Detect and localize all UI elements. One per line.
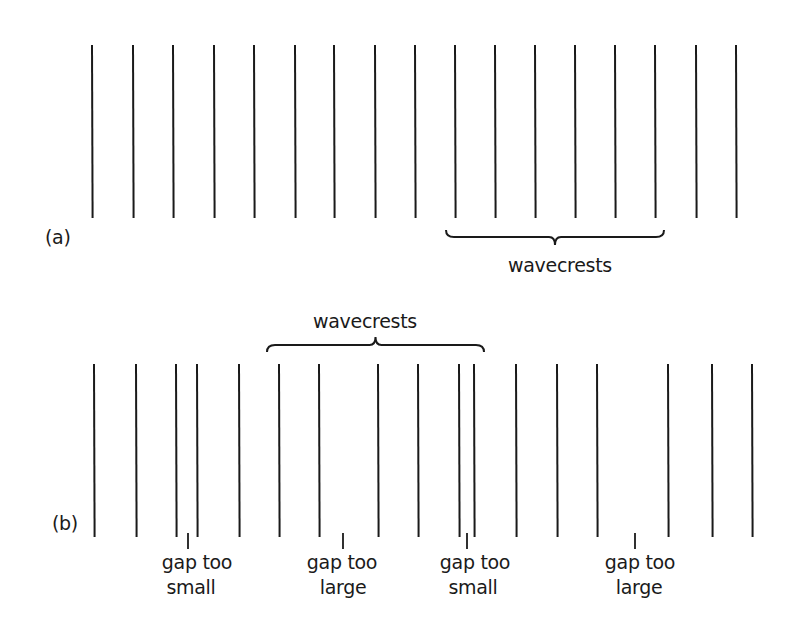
wavecrest-line xyxy=(239,364,240,537)
wavecrest-line xyxy=(655,45,656,218)
wavecrest-line xyxy=(415,45,416,218)
wavecrest-line xyxy=(712,364,713,537)
wavecrest-line xyxy=(455,45,456,218)
wavecrest-line xyxy=(214,45,215,218)
wavecrest-line xyxy=(557,364,558,537)
wavecrest-line xyxy=(535,45,536,218)
gap-annotation-2-line2: large xyxy=(293,576,393,598)
gap-annotation-1-line2: small xyxy=(141,576,241,598)
wavecrest-line xyxy=(615,45,616,218)
wavecrest-line xyxy=(516,364,517,537)
wavecrest-line xyxy=(474,364,475,537)
panel-a-brace-label: wavecrests xyxy=(508,254,612,276)
wavecrest-line xyxy=(418,364,419,537)
wavecrest-line xyxy=(176,364,177,537)
wavecrest-line xyxy=(495,45,496,218)
gap-annotation-4-line1: gap too xyxy=(590,551,690,573)
wavecrest-line xyxy=(173,45,174,218)
wavecrest-line xyxy=(254,45,255,218)
gap-annotation-3-line1: gap too xyxy=(425,551,525,573)
wavecrest-line xyxy=(575,45,576,218)
gap-annotation-4-line2: large xyxy=(589,576,689,598)
wavecrest-line xyxy=(334,45,335,218)
panel-a-wavecrest-lines xyxy=(92,45,737,218)
wavecrest-line xyxy=(92,45,93,218)
panel-b-wavecrest-lines xyxy=(94,364,753,537)
gap-annotation-1-line1: gap too xyxy=(147,551,247,573)
panel-b-brace xyxy=(267,337,484,352)
wavecrest-line xyxy=(279,364,280,537)
wavecrest-line xyxy=(295,45,296,218)
wavecrest-line xyxy=(378,364,379,537)
panel-a-label: (a) xyxy=(45,226,71,248)
wavecrest-line xyxy=(375,45,376,218)
wavecrest-line xyxy=(94,364,95,537)
wavecrest-line xyxy=(736,45,737,218)
wavecrest-line xyxy=(752,364,753,537)
panel-a-brace xyxy=(446,230,664,245)
panel-b-gap-ticks xyxy=(188,533,635,549)
panel-b-brace-label: wavecrests xyxy=(313,310,417,332)
wavecrest-line xyxy=(197,364,198,537)
wavecrest-line xyxy=(459,364,460,537)
gap-annotation-3-line2: small xyxy=(423,576,523,598)
wavecrest-line xyxy=(696,45,697,218)
wavecrest-line xyxy=(668,364,669,537)
wave-diagram: (a) wavecrests wavecrests (b) gap too sm… xyxy=(0,0,796,626)
wavecrest-line xyxy=(136,364,137,537)
wavecrest-line xyxy=(133,45,134,218)
panel-b-label: (b) xyxy=(52,512,78,534)
wavecrest-line xyxy=(597,364,598,537)
wavecrest-line xyxy=(319,364,320,537)
gap-annotation-2-line1: gap too xyxy=(292,551,392,573)
